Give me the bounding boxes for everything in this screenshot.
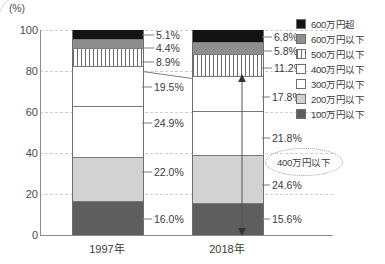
bar-1997[interactable] xyxy=(72,30,144,235)
legend-label-400: 400万円以下 xyxy=(311,62,365,76)
value-1997-over600: 5.1% xyxy=(156,29,180,41)
legend-label-over600: 600万円超 xyxy=(311,17,355,31)
segment-2018-200[interactable] xyxy=(193,156,263,205)
y-axis-line xyxy=(40,30,41,235)
legend-label-600: 600万円以下 xyxy=(311,32,365,46)
annotation-label: 400万円以下 xyxy=(277,155,331,169)
legend-label-200: 200万円以下 xyxy=(311,92,365,106)
segment-2018-400[interactable] xyxy=(193,77,263,112)
leader-1997-over600 xyxy=(142,35,154,36)
x-label-1997: 1997年 xyxy=(62,240,152,256)
value-2018-300: 21.8% xyxy=(272,132,302,144)
value-2018-over600: 6.8% xyxy=(274,31,298,43)
legend-item-500[interactable]: 500万円以下 xyxy=(296,47,365,60)
annotation-ellipse-400: 400万円以下 xyxy=(265,148,343,176)
value-1997-500: 8.9% xyxy=(156,56,180,68)
value-1997-300: 24.9% xyxy=(154,117,184,129)
legend-swatch-over600-icon xyxy=(296,19,306,29)
leader-2018-over600 xyxy=(262,37,272,38)
legend-label-100: 100万円以下 xyxy=(311,107,365,121)
leader-1997-500 xyxy=(142,62,154,63)
x-label-2018: 2018年 xyxy=(182,240,272,256)
leader-1997-600 xyxy=(142,47,154,48)
segment-1997-600[interactable] xyxy=(73,40,143,49)
legend-label-500: 500万円以下 xyxy=(311,47,365,61)
legend-swatch-100-icon xyxy=(296,109,306,119)
leader-2018-300 xyxy=(262,137,270,138)
legend-item-over600[interactable]: 600万円超 xyxy=(296,17,365,30)
leader-1997-400 xyxy=(142,87,152,88)
y-tick-100: 100 xyxy=(4,24,38,36)
segment-2018-100[interactable] xyxy=(193,204,263,235)
value-1997-200: 22.0% xyxy=(154,166,184,178)
y-tick-40: 40 xyxy=(4,147,38,159)
legend-swatch-200-icon xyxy=(296,94,306,104)
leader-2018-100 xyxy=(262,219,270,220)
legend-swatch-600-icon xyxy=(296,34,306,44)
y-axis: 100 80 60 40 20 0 xyxy=(0,0,38,264)
legend-swatch-300-icon xyxy=(296,79,306,89)
leader-2018-500 xyxy=(262,68,272,69)
leader-1997-100 xyxy=(142,218,152,219)
bar-2018[interactable] xyxy=(192,30,264,235)
segment-1997-300[interactable] xyxy=(73,107,143,158)
segment-2018-over600[interactable] xyxy=(193,30,263,43)
segment-2018-300[interactable] xyxy=(193,112,263,155)
leader-2018-400 xyxy=(262,97,270,98)
value-2018-600: 5.8% xyxy=(274,45,298,57)
segment-1997-over600[interactable] xyxy=(73,30,143,40)
legend-swatch-500-icon xyxy=(296,49,306,59)
leader-2018-200 xyxy=(262,185,270,186)
leader-2018-600 xyxy=(262,50,272,51)
value-1997-600: 4.4% xyxy=(156,42,180,54)
legend-item-600[interactable]: 600万円以下 xyxy=(296,32,365,45)
legend-item-300[interactable]: 300万円以下 xyxy=(296,77,365,90)
segment-2018-500[interactable] xyxy=(193,55,263,77)
y-tick-80: 80 xyxy=(4,65,38,77)
y-tick-0: 0 xyxy=(4,229,38,241)
segment-1997-100[interactable] xyxy=(73,202,143,235)
legend: 600万円超 600万円以下 500万円以下 400万円以下 300万円以下 2… xyxy=(296,17,365,120)
y-tick-60: 60 xyxy=(4,106,38,118)
legend-label-300: 300万円以下 xyxy=(311,77,365,91)
leader-1997-200 xyxy=(142,171,152,172)
segment-1997-500[interactable] xyxy=(73,49,143,67)
range-arrow-400-and-below xyxy=(236,74,248,236)
leader-1997-300 xyxy=(142,123,152,124)
value-2018-100: 15.6% xyxy=(272,213,302,225)
value-1997-100: 16.0% xyxy=(154,213,184,225)
value-1997-400: 19.5% xyxy=(154,81,184,93)
x-axis-line xyxy=(40,235,333,236)
legend-item-200[interactable]: 200万円以下 xyxy=(296,92,365,105)
segment-1997-200[interactable] xyxy=(73,158,143,203)
stacked-bar-chart: (%) 100 80 60 40 20 0 5.1% 4.4% 8.9% 19.… xyxy=(0,0,385,264)
segment-1997-400[interactable] xyxy=(73,67,143,107)
value-2018-200: 24.6% xyxy=(272,179,302,191)
y-tick-20: 20 xyxy=(4,188,38,200)
segment-2018-600[interactable] xyxy=(193,43,263,54)
legend-swatch-400-icon xyxy=(296,64,306,74)
legend-item-400[interactable]: 400万円以下 xyxy=(296,62,365,75)
legend-item-100[interactable]: 100万円以下 xyxy=(296,107,365,120)
